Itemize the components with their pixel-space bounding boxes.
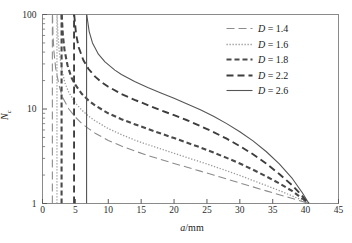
y-axis-title: Nc xyxy=(0,110,13,120)
x-tick-label-40: 40 xyxy=(301,205,311,215)
y-axis-title-subscript: c xyxy=(5,110,13,113)
legend-line-sample-4 xyxy=(226,85,253,96)
legend-label-3: D = 2.2 xyxy=(258,70,288,81)
y-axis-title-symbol: N xyxy=(0,113,10,120)
figure-container: 051015202530354045 110100 a/mm Nc D = 1.… xyxy=(0,0,352,243)
legend-label-1: D = 1.6 xyxy=(258,39,288,50)
legend-line-sample-2 xyxy=(226,54,253,65)
x-axis-title-unit: /mm xyxy=(185,222,203,233)
legend-value-3: = 2.2 xyxy=(265,70,288,81)
x-tick-label-0: 0 xyxy=(40,205,45,215)
x-tick-label-25: 25 xyxy=(202,205,212,215)
legend-label-2: D = 1.8 xyxy=(258,54,288,65)
legend-value-2: = 1.8 xyxy=(265,54,288,65)
legend-item-3[interactable]: D = 2.2 xyxy=(226,69,288,82)
legend-item-2[interactable]: D = 1.8 xyxy=(226,53,288,66)
legend-label-0: D = 1.4 xyxy=(258,23,288,34)
x-tick-label-45: 45 xyxy=(334,205,344,215)
chart-legend: D = 1.4D = 1.6D = 1.8D = 2.2D = 2.6 xyxy=(226,22,288,97)
x-tick-label-35: 35 xyxy=(268,205,278,215)
legend-line-sample-3 xyxy=(226,70,253,81)
x-axis-title: a/mm xyxy=(180,222,203,233)
legend-line-sample-0 xyxy=(226,23,253,34)
legend-item-0[interactable]: D = 1.4 xyxy=(226,22,288,35)
x-tick-label-20: 20 xyxy=(169,205,179,215)
legend-value-0: = 1.4 xyxy=(265,23,288,34)
legend-line-sample-1 xyxy=(226,39,253,50)
x-tick-label-10: 10 xyxy=(104,205,114,215)
legend-label-4: D = 2.6 xyxy=(258,85,288,96)
legend-value-4: = 2.6 xyxy=(265,85,288,96)
x-tick-label-30: 30 xyxy=(235,205,245,215)
legend-value-1: = 1.6 xyxy=(265,39,288,50)
x-tick-label-15: 15 xyxy=(136,205,146,215)
x-tick-label-5: 5 xyxy=(73,205,78,215)
y-tick-label-1: 1 xyxy=(0,199,37,209)
y-tick-label-100: 100 xyxy=(0,10,37,20)
legend-item-1[interactable]: D = 1.6 xyxy=(226,38,288,51)
legend-item-4[interactable]: D = 2.6 xyxy=(226,84,288,97)
